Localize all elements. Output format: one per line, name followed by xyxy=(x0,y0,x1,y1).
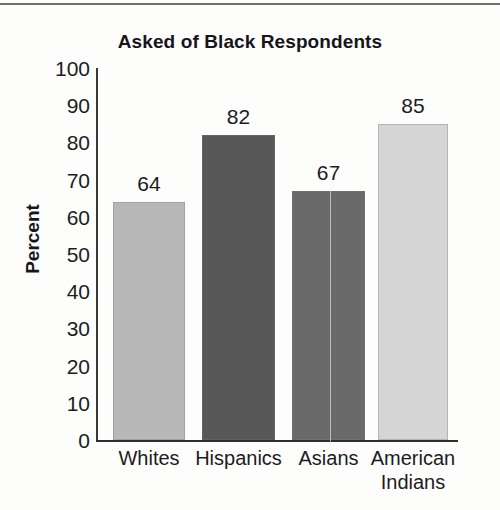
bar-hispanics[interactable] xyxy=(202,135,275,440)
y-axis-tick-40: 40 xyxy=(38,281,90,302)
bar-value-label-whites: 64 xyxy=(137,173,160,194)
bar-group-american-indians: 85 xyxy=(378,68,448,440)
y-axis-tick-70: 70 xyxy=(38,169,90,190)
bar-american-indians[interactable] xyxy=(378,124,448,440)
bar-value-label-american-indians: 85 xyxy=(401,95,424,116)
y-axis-tick-60: 60 xyxy=(38,206,90,227)
bar-chart-figure: Asked of Black Respondents Percent 10090… xyxy=(0,0,500,510)
y-axis-tick-labels: 1009080706050403020100 xyxy=(38,68,90,440)
bar-group-whites: 64 xyxy=(113,68,185,440)
y-axis-tick-0: 0 xyxy=(38,430,90,451)
x-axis-tick-labels: WhitesHispanicsAsiansAmericanIndians xyxy=(98,446,460,508)
x-axis-tick-line: Whites xyxy=(99,446,199,470)
y-axis-tick-50: 50 xyxy=(38,244,90,265)
y-axis-tick-30: 30 xyxy=(38,318,90,339)
x-axis-tick-line: Indians xyxy=(364,470,462,494)
plot-area: 64826785 xyxy=(98,68,458,440)
x-axis-tick-hispanics: Hispanics xyxy=(188,446,289,470)
bar-value-label-asians: 67 xyxy=(317,162,340,183)
scan-seam xyxy=(330,150,331,445)
bar-asians[interactable] xyxy=(292,191,365,440)
bar-group-hispanics: 82 xyxy=(202,68,275,440)
x-axis-tick-american-indians: AmericanIndians xyxy=(364,446,462,495)
y-axis-tick-20: 20 xyxy=(38,355,90,376)
bar-group-asians: 67 xyxy=(292,68,365,440)
y-axis-tick-80: 80 xyxy=(38,132,90,153)
x-axis-tick-line: Hispanics xyxy=(188,446,289,470)
chart-title: Asked of Black Respondents xyxy=(0,31,500,53)
bar-whites[interactable] xyxy=(113,202,185,440)
x-axis-tick-whites: Whites xyxy=(99,446,199,470)
bar-value-label-hispanics: 82 xyxy=(227,106,250,127)
x-axis-line xyxy=(96,440,458,442)
x-axis-tick-line: American xyxy=(364,446,462,470)
y-axis-tick-90: 90 xyxy=(38,95,90,116)
y-axis-tick-100: 100 xyxy=(38,58,90,79)
y-axis-tick-10: 10 xyxy=(38,392,90,413)
